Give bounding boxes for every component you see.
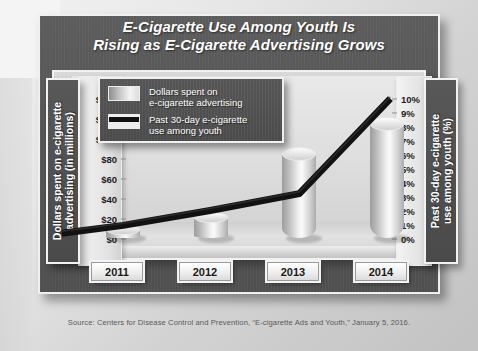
bar-body [282,154,316,238]
background-shadow [0,78,32,351]
legend-advertising-line-2: e-cigarette advertising [149,97,242,108]
legend-youth-line-2: use among youth [149,125,222,136]
year-label-2011: 2011 [91,262,143,281]
bar-2012 [194,212,228,238]
title-line-1: E-Cigarette Use Among Youth Is [123,18,355,35]
chart-legend: Dollars spent on e-cigarette advertising… [98,77,284,143]
legend-advertising-line-1: Dollars spent on [149,86,218,97]
bar-cap [106,224,140,235]
right-axis-title: Past 30-day e-cigarette use among youth … [424,78,458,264]
year-label-2014: 2014 [355,262,407,281]
bar-cap [282,147,316,161]
legend-label-advertising: Dollars spent on e-cigarette advertising [149,86,242,108]
bar-cap [194,212,228,223]
bar-swatch-icon [108,86,140,101]
title-line-2: Rising as E-Cigarette Advertising Grows [38,36,440,54]
source-note: Source: Centers for Disease Control and … [0,318,478,327]
bar-cap [370,117,404,131]
bar-body [370,124,404,238]
year-label-2012: 2012 [179,262,231,281]
right-axis-title-line-1: Past 30-day e-cigarette [429,114,441,228]
infographic-chart: E-Cigarette Use Among Youth Is Rising as… [0,0,478,351]
year-label-2013: 2013 [267,262,319,281]
legend-label-youth-use: Past 30-day e-cigarette use among youth [149,114,247,136]
bar-2011 [106,224,140,238]
legend-item-advertising: Dollars spent on e-cigarette advertising [108,86,276,108]
right-axis-title-rot: Past 30-day e-cigarette use among youth … [429,114,453,228]
page-title: E-Cigarette Use Among Youth Is Rising as… [38,18,440,54]
bar-2013 [282,147,316,238]
bar-2014 [370,117,404,238]
legend-item-youth-use: Past 30-day e-cigarette use among youth [108,114,276,136]
right-axis-title-line-2: use among youth (%) [441,118,453,224]
legend-youth-line-1: Past 30-day e-cigarette [149,114,247,125]
line-swatch-icon [108,114,140,129]
